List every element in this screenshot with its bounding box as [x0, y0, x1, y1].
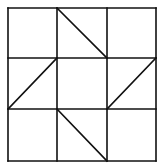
diagonal-middle-right: [107, 58, 156, 109]
quilt-block-diagram: [0, 0, 157, 164]
diagonal-lines: [8, 8, 156, 161]
grid-lines: [8, 8, 156, 161]
diagonal-bottom-middle: [57, 109, 107, 161]
diagonal-top-middle: [57, 8, 107, 58]
diagonal-middle-left: [8, 58, 57, 109]
